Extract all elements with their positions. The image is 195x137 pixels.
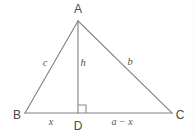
- side-c-line: [25, 21, 78, 113]
- triangle-diagram-svg: [0, 0, 195, 137]
- right-edge-artifact: [193, 0, 195, 137]
- geometry-figure: A B C D c h b x a − x: [0, 0, 195, 137]
- side-label-c: c: [43, 58, 48, 69]
- vertex-label-c: C: [176, 109, 185, 121]
- vertex-label-b: B: [13, 109, 21, 121]
- right-angle-marker: [78, 105, 86, 113]
- segment-label-x: x: [49, 117, 53, 127]
- vertex-label-a: A: [74, 3, 82, 15]
- segment-label-a-minus-x: a − x: [111, 117, 132, 127]
- side-label-b: b: [127, 57, 132, 68]
- side-label-h: h: [80, 58, 85, 69]
- side-b-line: [78, 21, 172, 113]
- vertex-label-d: D: [74, 120, 83, 132]
